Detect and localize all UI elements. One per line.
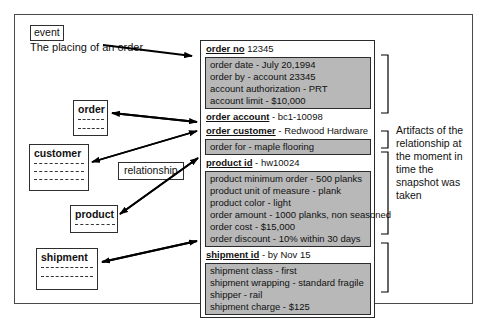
- diagram-canvas: event The placing of an order order cust…: [0, 0, 491, 318]
- detail-row: shipment class - first: [206, 265, 370, 277]
- detail-row: account limit - $10,000: [206, 95, 370, 107]
- detail-row: order for - maple flooring: [206, 141, 370, 153]
- snapshot-annotation: Artifacts of the relationship at the mom…: [396, 124, 468, 202]
- detail-row: shipment charge - $125: [206, 301, 370, 313]
- entity-rule: [78, 128, 104, 129]
- detail-row: order cost - $15,000: [206, 221, 370, 233]
- event-caption: The placing of an order: [30, 41, 180, 55]
- entity-label-order: order: [78, 103, 103, 115]
- detail-row: shipper - rail: [206, 289, 370, 301]
- detail-row: order discount - 10% within 30 days: [206, 233, 370, 245]
- detail-row: product unit of measure - plank: [206, 185, 370, 197]
- snapshot-header-label: order account: [206, 111, 269, 122]
- snapshot-header-label: shipment id: [206, 249, 259, 260]
- snapshot-header-value: - by Nov 15: [262, 249, 311, 260]
- entity-rule: [78, 119, 104, 120]
- entity-box-shipment[interactable]: shipment: [36, 248, 98, 290]
- snapshot-header-label: order customer: [206, 125, 276, 136]
- entity-rule: [41, 276, 93, 277]
- detail-row: order by - account 23345: [206, 71, 370, 83]
- entity-rule: [34, 163, 84, 164]
- snapshot-header-value: - bc1-10098: [272, 111, 323, 122]
- entity-box-customer[interactable]: customer: [29, 144, 89, 191]
- detail-row: order amount - 1000 planks, non seasoned: [206, 209, 370, 221]
- entity-label-shipment: shipment: [41, 251, 93, 263]
- detail-row: account authorization - PRT: [206, 83, 370, 95]
- snapshot-header-value: - hw10024: [255, 157, 299, 168]
- entity-rule: [34, 179, 84, 180]
- snapshot-header-label: order no: [206, 43, 245, 54]
- snapshot-header-product-id: product id - hw10024: [202, 156, 373, 170]
- entity-rule: [41, 267, 93, 268]
- snapshot-header-order-account: order account - bc1-10098: [202, 110, 373, 124]
- relationship-tag: relationship: [118, 162, 184, 180]
- detail-row: order date - July 20,1994: [206, 59, 370, 71]
- snapshot-header-value: - Redwood Hardware: [278, 125, 368, 136]
- snapshot-header-order-customer: order customer - Redwood Hardware: [202, 124, 373, 138]
- entity-label-customer: customer: [34, 147, 84, 159]
- detail-group-product: product minimum order - 500 planks produ…: [205, 171, 371, 247]
- detail-group-shipment: shipment class - first shipment wrapping…: [205, 263, 371, 315]
- detail-row: product minimum order - 500 planks: [206, 173, 370, 185]
- event-tag: event: [30, 25, 64, 41]
- entity-rule: [34, 171, 84, 172]
- detail-group-customer: order for - maple flooring: [205, 139, 371, 155]
- entity-box-order[interactable]: order: [73, 100, 108, 136]
- entity-label-product: product: [75, 208, 113, 220]
- snapshot-header-shipment-id: shipment id - by Nov 15: [202, 248, 373, 262]
- detail-row: shipment wrapping - standard fragile: [206, 277, 370, 289]
- entity-rule: [75, 224, 115, 225]
- detail-row: product color - light: [206, 197, 370, 209]
- snapshot-header-label: product id: [206, 157, 252, 168]
- entity-box-product[interactable]: product: [70, 205, 118, 233]
- snapshot-header-order-no: order no 12345: [202, 42, 373, 56]
- snapshot-header-value: 12345: [247, 43, 273, 54]
- snapshot-panel: order no 12345 order date - July 20,1994…: [200, 40, 375, 318]
- detail-group-order: order date - July 20,1994 order by - acc…: [205, 57, 371, 109]
